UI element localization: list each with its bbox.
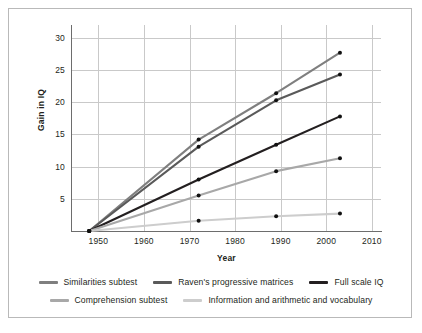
- chart-legend: Similarities subtestRaven's progressive …: [9, 273, 413, 309]
- data-point: [338, 51, 342, 55]
- x-tick-label: 2010: [352, 236, 392, 246]
- x-tick-label: 1970: [170, 236, 210, 246]
- series-lines: [71, 25, 381, 231]
- data-point: [87, 229, 91, 233]
- legend-row: Comprehension subtestInformation and ari…: [9, 291, 413, 309]
- data-point: [338, 156, 342, 160]
- legend-label: Comprehension subtest: [75, 295, 168, 305]
- chart-figure: 51015202530 1950196019701980199020002010…: [8, 8, 412, 318]
- legend-swatch: [50, 299, 69, 302]
- data-point: [197, 145, 201, 149]
- x-axis-title: Year: [71, 253, 382, 263]
- data-point: [274, 91, 278, 95]
- y-tick-label: 30: [39, 33, 65, 43]
- legend-label: Similarities subtest: [64, 277, 138, 287]
- data-point: [197, 219, 201, 223]
- legend-item[interactable]: Raven's progressive matrices: [153, 277, 293, 287]
- data-point: [274, 98, 278, 102]
- data-point: [197, 138, 201, 142]
- legend-swatch: [309, 281, 328, 284]
- x-tick-label: 1950: [78, 236, 118, 246]
- data-point: [338, 114, 342, 118]
- x-tick-label: 1980: [215, 236, 255, 246]
- data-point: [197, 178, 201, 182]
- legend-item[interactable]: Information and arithmetic and vocabular…: [183, 295, 372, 305]
- series-line: [89, 214, 340, 231]
- data-point: [197, 194, 201, 198]
- data-point: [338, 212, 342, 216]
- x-tick-label: 1960: [124, 236, 164, 246]
- legend-label: Information and arithmetic and vocabular…: [208, 295, 372, 305]
- series-line: [89, 75, 340, 231]
- data-point: [274, 214, 278, 218]
- data-point: [338, 73, 342, 77]
- plot-area: 51015202530 1950196019701980199020002010…: [9, 9, 413, 267]
- x-axis-line: [71, 231, 382, 232]
- legend-row: Similarities subtestRaven's progressive …: [9, 273, 413, 291]
- data-point: [274, 169, 278, 173]
- legend-item[interactable]: Similarities subtest: [39, 277, 138, 287]
- legend-label: Full scale IQ: [334, 277, 383, 287]
- legend-swatch: [153, 281, 172, 284]
- series-line: [89, 53, 340, 231]
- legend-item[interactable]: Comprehension subtest: [50, 295, 168, 305]
- legend-swatch: [183, 299, 202, 302]
- y-tick-label: 5: [39, 194, 65, 204]
- x-tick-label: 2000: [306, 236, 346, 246]
- data-point: [274, 143, 278, 147]
- series-line: [89, 116, 340, 231]
- x-tick-label: 1990: [261, 236, 301, 246]
- y-tick-label: 10: [39, 162, 65, 172]
- legend-item[interactable]: Full scale IQ: [309, 277, 383, 287]
- legend-label: Raven's progressive matrices: [178, 277, 293, 287]
- y-axis-title: Gain in IQ: [36, 70, 46, 150]
- legend-swatch: [39, 281, 58, 284]
